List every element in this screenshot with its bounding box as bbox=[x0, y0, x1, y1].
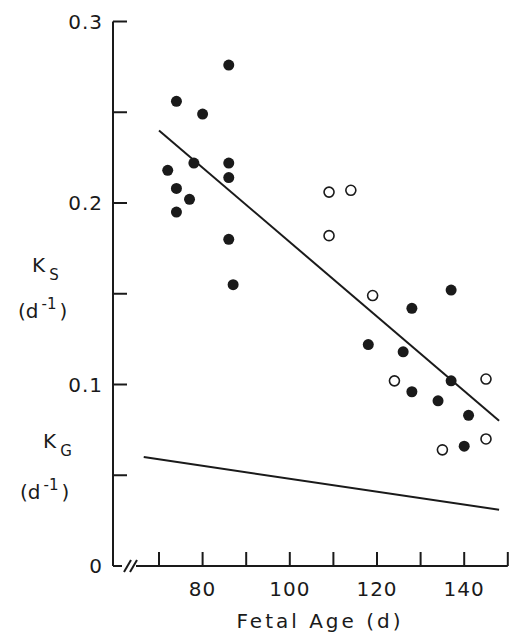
filled-data-point bbox=[463, 410, 474, 421]
filled-data-point bbox=[406, 386, 417, 397]
y-tick-label: 0.2 bbox=[68, 191, 103, 215]
chart: 8010012014000.10.20.3 Fetal Age (d) KS (… bbox=[0, 0, 515, 639]
open-data-point bbox=[437, 445, 447, 455]
filled-data-point bbox=[406, 303, 417, 314]
filled-data-point bbox=[433, 395, 444, 406]
open-data-point bbox=[389, 376, 399, 386]
open-data-point bbox=[324, 231, 334, 241]
filled-data-point bbox=[228, 279, 239, 290]
filled-data-point bbox=[197, 109, 208, 120]
tick-labels: 8010012014000.10.20.3 bbox=[68, 10, 485, 602]
open-data-point bbox=[481, 374, 491, 384]
x-tick-label: 120 bbox=[356, 577, 397, 601]
filled-data-point bbox=[223, 158, 234, 169]
filled-data-point bbox=[171, 183, 182, 194]
filled-data-point bbox=[162, 165, 173, 176]
open-data-point bbox=[346, 185, 356, 195]
open-data-point bbox=[324, 187, 334, 197]
filled-data-point bbox=[188, 158, 199, 169]
data-points bbox=[162, 60, 491, 455]
x-tick-label: 80 bbox=[189, 577, 216, 601]
filled-data-point bbox=[363, 339, 374, 350]
open-data-point bbox=[368, 291, 378, 301]
y-tick-label: 0.3 bbox=[68, 10, 103, 34]
filled-data-point bbox=[223, 172, 234, 183]
filled-data-point bbox=[446, 375, 457, 386]
x-tick-label: 140 bbox=[444, 577, 485, 601]
x-axis-title: Fetal Age (d) bbox=[236, 609, 403, 633]
filled-data-point bbox=[446, 285, 457, 296]
y-label-ks: KS (d-1) bbox=[18, 253, 67, 323]
filled-data-point bbox=[459, 441, 470, 452]
svg-text:KS: KS bbox=[32, 253, 59, 284]
filled-data-point bbox=[171, 207, 182, 218]
filled-data-point bbox=[223, 234, 234, 245]
y-tick-label: 0 bbox=[89, 554, 103, 578]
y-tick-label: 0.1 bbox=[68, 373, 103, 397]
svg-text:KG: KG bbox=[43, 429, 72, 460]
regression-line bbox=[144, 457, 499, 510]
filled-data-point bbox=[223, 60, 234, 71]
y-label-kg: KG (d-1) bbox=[20, 429, 72, 504]
svg-text:(d-1): (d-1) bbox=[20, 476, 69, 504]
filled-data-point bbox=[171, 96, 182, 107]
open-data-point bbox=[481, 434, 491, 444]
filled-data-point bbox=[398, 346, 409, 357]
filled-data-point bbox=[184, 194, 195, 205]
svg-text:(d-1): (d-1) bbox=[18, 295, 67, 323]
x-tick-label: 100 bbox=[269, 577, 310, 601]
